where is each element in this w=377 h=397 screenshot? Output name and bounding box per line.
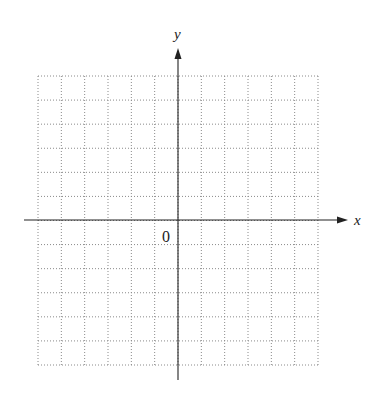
- origin-label: 0: [162, 228, 170, 245]
- x-axis-arrow-icon: [337, 217, 348, 224]
- y-axis-label: y: [172, 26, 181, 42]
- x-axis-label: x: [353, 212, 361, 228]
- y-axis-arrow-icon: [175, 48, 182, 59]
- coordinate-plane: y x 0: [0, 0, 377, 397]
